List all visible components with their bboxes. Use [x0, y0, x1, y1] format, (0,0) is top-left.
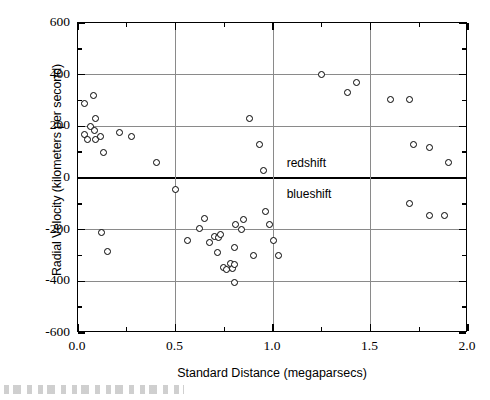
x-axis-tick	[272, 324, 273, 331]
x-axis-title: Standard Distance (megaparsecs)	[77, 366, 467, 380]
y-axis-tick	[459, 281, 466, 282]
y-axis-tick	[462, 255, 466, 256]
y-axis-tick	[78, 177, 85, 178]
data-point	[387, 96, 394, 103]
data-point	[153, 159, 160, 166]
x-axis-tick	[77, 324, 78, 331]
x-axis-tick	[224, 23, 225, 27]
data-point	[217, 231, 224, 238]
data-point	[231, 244, 238, 251]
y-tick-label: -200	[26, 222, 70, 236]
data-point	[238, 226, 245, 233]
data-point	[91, 127, 98, 134]
y-axis-tick	[459, 177, 466, 178]
data-point	[100, 149, 107, 156]
y-tick-label: 400	[26, 67, 70, 81]
y-axis-tick	[78, 306, 82, 307]
data-point	[270, 237, 277, 244]
y-axis-tick	[78, 229, 85, 230]
y-axis-tick	[462, 203, 466, 204]
x-axis-tick	[224, 327, 225, 331]
blueshift-label: blueshift	[285, 187, 334, 201]
x-axis-tick	[126, 327, 127, 331]
plot-area: redshiftblueshift	[77, 22, 467, 332]
x-axis-tick	[272, 23, 273, 30]
x-axis-tick	[419, 327, 420, 331]
data-point	[441, 212, 448, 219]
y-axis-tick	[78, 281, 85, 282]
data-point	[206, 239, 213, 246]
y-axis-tick	[78, 74, 85, 75]
x-tick-label: 2.0	[442, 338, 490, 354]
y-tick-label: 0	[26, 170, 70, 184]
data-point	[426, 212, 433, 219]
data-point	[410, 141, 417, 148]
y-axis-tick	[78, 22, 85, 23]
x-axis-tick	[175, 324, 176, 331]
data-point	[250, 252, 257, 259]
y-axis-tick	[462, 151, 466, 152]
y-axis-tick	[459, 22, 466, 23]
scatter-chart-figure: Radial Velocity (kilometers per second) …	[0, 0, 490, 400]
y-axis-tick	[459, 229, 466, 230]
data-point	[128, 133, 135, 140]
data-point	[201, 215, 208, 222]
data-point	[90, 92, 97, 99]
y-axis-tick	[78, 203, 82, 204]
x-axis-tick	[321, 23, 322, 27]
x-axis-tick	[467, 23, 468, 30]
y-axis-tick	[459, 332, 466, 333]
y-axis-tick	[462, 48, 466, 49]
gridline-vertical	[273, 23, 274, 331]
x-axis-tick	[126, 23, 127, 27]
x-axis-tick	[370, 23, 371, 30]
data-point	[344, 89, 351, 96]
data-point	[231, 261, 238, 268]
gridline-vertical	[370, 23, 371, 331]
redshift-label: redshift	[285, 156, 328, 170]
data-point	[406, 200, 413, 207]
data-point	[84, 136, 91, 143]
data-point	[81, 100, 88, 107]
x-axis-tick	[419, 23, 420, 27]
data-point	[214, 249, 221, 256]
data-point	[104, 248, 111, 255]
x-tick-label: 1.5	[345, 338, 395, 354]
y-axis-tick	[78, 126, 85, 127]
gridline-vertical	[175, 23, 176, 331]
y-axis-tick	[462, 100, 466, 101]
data-point	[256, 141, 263, 148]
data-point	[172, 186, 179, 193]
y-axis-tick	[462, 306, 466, 307]
y-axis-tick	[459, 126, 466, 127]
y-axis-tick	[459, 74, 466, 75]
data-point	[426, 144, 433, 151]
y-tick-label: -400	[26, 273, 70, 287]
data-point	[353, 79, 360, 86]
x-tick-label: 0.5	[150, 338, 200, 354]
data-point	[318, 71, 325, 78]
data-point	[445, 159, 452, 166]
data-point	[97, 133, 104, 140]
y-axis-tick	[78, 255, 82, 256]
y-axis-tick	[78, 48, 82, 49]
x-axis-tick	[321, 327, 322, 331]
data-point	[275, 252, 282, 259]
data-point	[98, 229, 105, 236]
data-point	[240, 216, 247, 223]
figure-caption-fragment	[4, 385, 184, 394]
y-axis-tick	[78, 332, 85, 333]
data-point	[260, 167, 267, 174]
y-tick-label: 200	[26, 118, 70, 132]
x-axis-tick	[77, 23, 78, 30]
y-tick-label: -600	[26, 325, 70, 339]
data-point	[406, 96, 413, 103]
x-axis-tick	[370, 324, 371, 331]
x-tick-label: 0.0	[52, 338, 102, 354]
data-point	[262, 208, 269, 215]
data-point	[116, 129, 123, 136]
y-axis-tick	[78, 151, 82, 152]
y-tick-label: 600	[26, 15, 70, 29]
data-point	[266, 221, 273, 228]
x-tick-label: 1.0	[247, 338, 297, 354]
